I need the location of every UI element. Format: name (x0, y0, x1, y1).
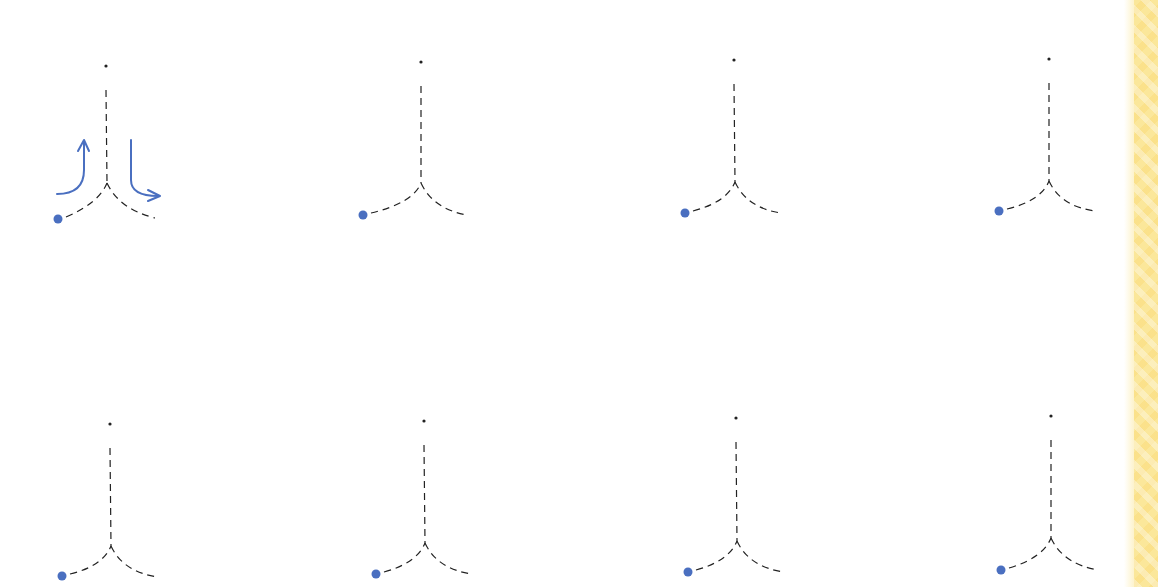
vertical-dashed-line (734, 84, 735, 182)
tracing-figure (995, 57, 1097, 215)
top-guide-dot (1047, 57, 1050, 60)
tracing-figure (54, 64, 156, 223)
start-dot (681, 209, 690, 218)
decorative-yellow-border (1134, 0, 1158, 587)
left-dashed-curve (384, 543, 425, 572)
start-dot (684, 568, 693, 577)
tracing-figure (684, 416, 785, 576)
top-guide-dot (108, 422, 111, 425)
top-guide-dot (1049, 414, 1052, 417)
left-dashed-curve (371, 183, 421, 213)
left-dashed-curve (1007, 181, 1049, 209)
right-dashed-curve (1049, 181, 1096, 211)
right-dashed-curve (735, 182, 781, 213)
down-right-arrow-icon (131, 140, 160, 201)
vertical-dashed-line (106, 90, 107, 183)
left-dashed-curve (70, 546, 111, 574)
tracing-figure (58, 422, 159, 580)
left-dashed-curve (66, 183, 107, 217)
start-dot (372, 570, 381, 579)
start-dot (995, 207, 1004, 216)
vertical-dashed-line (110, 448, 111, 546)
page-border-fade (1124, 0, 1134, 587)
start-dot (997, 566, 1006, 575)
right-dashed-curve (425, 543, 472, 574)
tracing-figure (997, 414, 1099, 574)
start-dot (54, 215, 63, 224)
left-dashed-curve (696, 541, 737, 570)
tracing-figure (681, 58, 782, 217)
right-dashed-curve (737, 541, 784, 572)
left-dashed-curve (1009, 538, 1051, 568)
up-arrow-icon (57, 140, 89, 194)
start-dot (58, 572, 67, 581)
top-guide-dot (732, 58, 735, 61)
top-guide-dot (422, 419, 425, 422)
tracing-canvas (0, 0, 1158, 587)
left-dashed-curve (693, 182, 735, 211)
tracing-figure (359, 60, 468, 219)
vertical-dashed-line (736, 442, 737, 541)
right-dashed-curve (421, 183, 467, 215)
tracing-figure (372, 419, 473, 578)
tracing-worksheet (0, 0, 1158, 587)
top-guide-dot (104, 64, 107, 67)
start-dot (359, 211, 368, 220)
top-guide-dot (419, 60, 422, 63)
right-dashed-curve (1051, 538, 1098, 570)
top-guide-dot (734, 416, 737, 419)
right-dashed-curve (111, 546, 158, 577)
vertical-dashed-line (424, 445, 425, 543)
